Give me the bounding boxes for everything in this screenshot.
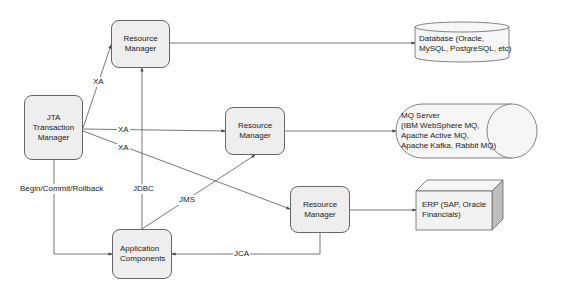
edge-label-xa-mq: XA <box>117 125 130 135</box>
edge-begin-commit <box>54 160 112 254</box>
mq-server-label: MQ Server (IBM WebSphere MQ, Apache Acti… <box>401 111 496 151</box>
edge-label-jms: JMS <box>178 195 196 205</box>
application-components[interactable]: Application Components <box>112 229 172 279</box>
database-label-line: MySQL, PostgreSQL, etc) <box>419 44 511 54</box>
resource-manager-erp[interactable]: Resource Manager <box>290 186 350 233</box>
node-label: Application <box>120 244 165 254</box>
edge-label-xa-db: XA <box>92 77 105 87</box>
database-label: Database (Oracle, MySQL, PostgreSQL, etc… <box>419 34 511 54</box>
edge-label-begin-commit-rollback: Begin/Commit/Rollback <box>19 184 104 194</box>
edge-label-xa-erp: XA <box>117 143 130 153</box>
node-label: JTA <box>33 113 75 123</box>
erp-label-line: ERP (SAP, Oracle <box>422 200 486 210</box>
node-label: Manager <box>303 210 337 220</box>
edge-xa-mq <box>83 129 225 131</box>
mq-label-line: (IBM WebSphere MQ, <box>401 121 496 131</box>
resource-manager-database[interactable]: Resource Manager <box>111 20 170 68</box>
node-label: Manager <box>238 131 272 141</box>
mq-label-line: MQ Server <box>401 111 496 121</box>
edge-label-jdbc: JDBC <box>132 184 155 194</box>
erp-label-line: Financials) <box>422 210 486 220</box>
edge-label-jca: JCA <box>233 249 250 259</box>
database-label-line: Database (Oracle, <box>419 34 511 44</box>
node-label: Manager <box>33 133 75 143</box>
node-label: Manager <box>123 44 157 54</box>
mq-label-line: Apache Active MQ, <box>401 131 496 141</box>
node-label: Resource <box>123 34 157 44</box>
mq-label-line: Apache Kafka, Rabbit MQ) <box>401 141 496 151</box>
node-label: Transaction <box>33 123 75 133</box>
node-label: Components <box>120 254 165 264</box>
edge-jms <box>142 155 255 229</box>
node-label: Resource <box>238 121 272 131</box>
resource-manager-mq[interactable]: Resource Manager <box>225 107 285 155</box>
jta-transaction-manager[interactable]: JTA Transaction Manager <box>24 95 83 160</box>
erp-label: ERP (SAP, Oracle Financials) <box>422 200 486 220</box>
node-label: Resource <box>303 200 337 210</box>
